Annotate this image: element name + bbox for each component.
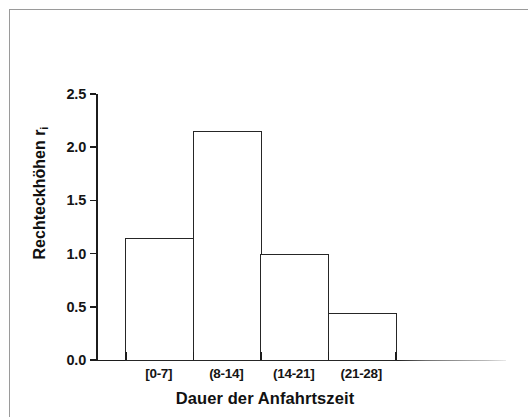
y-tick-label: 0.0 <box>38 352 86 368</box>
x-category-label: [0-7] <box>145 366 172 381</box>
bar <box>260 254 329 361</box>
x-category-label: (14-21] <box>273 366 314 381</box>
y-tick-mark <box>90 93 96 95</box>
x-tick-mark <box>395 352 397 360</box>
x-category-label: (8-14] <box>209 366 243 381</box>
y-tick-mark <box>90 306 96 308</box>
y-axis-title-text: Rechteckhöhen r <box>31 130 48 260</box>
y-axis-line <box>96 94 98 361</box>
chart-page: 0.00.51.01.52.02.5 [0-7](8-14](14-21](21… <box>0 0 530 418</box>
bar <box>125 238 194 361</box>
histogram-plot: 0.00.51.01.52.02.5 [0-7](8-14](14-21](21… <box>0 0 530 418</box>
y-tick-label: 0.5 <box>38 299 86 315</box>
x-axis-title: Dauer der Anfahrtszeit <box>0 389 530 408</box>
y-tick-mark <box>90 253 96 255</box>
y-tick-mark <box>90 146 96 148</box>
y-axis-title: Rechteckhöhen ri <box>31 93 49 293</box>
bar <box>328 313 397 361</box>
x-tick-mark <box>260 352 262 360</box>
x-tick-mark <box>328 352 330 360</box>
x-category-label: (21-28] <box>341 366 382 381</box>
x-tick-mark <box>125 352 127 360</box>
x-tick-mark <box>193 352 195 360</box>
y-axis-title-subscript: i <box>38 127 50 130</box>
y-tick-mark <box>90 200 96 202</box>
y-tick-mark <box>90 359 96 361</box>
bar <box>193 131 262 361</box>
